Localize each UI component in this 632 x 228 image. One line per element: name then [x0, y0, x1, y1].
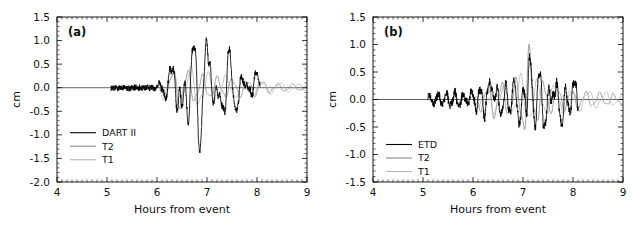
y-axis-tick-label: -0.5: [30, 105, 51, 117]
chart-panel-b: 4567891.51.00.50.0-0.5-1.0-1.5Hours from…: [316, 0, 632, 228]
y-axis-tick-label: -1.0: [346, 148, 367, 160]
y-axis-tick-label: 1.0: [349, 38, 366, 50]
y-axis-tick-label: 0.0: [349, 93, 366, 105]
chart-svg-a: 4567891.51.00.50.0-0.5-1.0-1.5-2.0Hours …: [0, 0, 316, 228]
plot-frame: [57, 17, 307, 182]
y-axis-tick-label: -1.5: [30, 152, 51, 164]
y-axis-title: cm: [326, 91, 339, 108]
x-axis-tick-label: 4: [54, 186, 61, 198]
x-axis-tick-label: 9: [304, 186, 311, 198]
legend-label-etd: ETD: [418, 139, 437, 150]
x-axis-title: Hours from event: [134, 203, 231, 216]
y-axis-title: cm: [10, 91, 23, 108]
y-axis-tick-label: -1.0: [30, 128, 51, 140]
y-axis-tick-label: 0.5: [349, 66, 366, 78]
legend-label-t1: T1: [101, 154, 114, 165]
chart-panel-a: 4567891.51.00.50.0-0.5-1.0-1.5-2.0Hours …: [0, 0, 316, 228]
legend-label-t2: T2: [417, 152, 430, 163]
figure-container: 4567891.51.00.50.0-0.5-1.0-1.5-2.0Hours …: [0, 0, 632, 228]
y-axis-tick-label: 0.5: [33, 58, 50, 70]
x-axis-tick-label: 6: [154, 186, 161, 198]
legend-label-dart-ii: DART II: [102, 127, 136, 138]
y-axis-tick-label: 0.0: [33, 81, 50, 93]
series-trace-etd: [428, 53, 578, 130]
y-axis-tick-label: 1.5: [349, 11, 366, 23]
y-axis-tick-label: -1.5: [346, 176, 367, 188]
x-axis-tick-label: 8: [570, 186, 577, 198]
x-axis-tick-label: 4: [370, 186, 377, 198]
x-axis-title: Hours from event: [450, 203, 547, 216]
x-axis-tick-label: 8: [254, 186, 261, 198]
panel-tag: (b): [384, 25, 403, 39]
x-axis-tick-label: 7: [520, 186, 527, 198]
panel-tag: (a): [68, 25, 86, 39]
x-axis-tick-label: 9: [620, 186, 627, 198]
x-axis-tick-label: 5: [104, 186, 111, 198]
y-axis-tick-label: -0.5: [346, 121, 367, 133]
y-axis-tick-label: 1.0: [33, 34, 50, 46]
legend-label-t2: T2: [101, 141, 114, 152]
x-axis-tick-label: 5: [420, 186, 427, 198]
x-axis-tick-label: 7: [204, 186, 211, 198]
y-axis-tick-label: -2.0: [30, 176, 51, 188]
chart-svg-b: 4567891.51.00.50.0-0.5-1.0-1.5Hours from…: [316, 0, 632, 228]
legend-label-t1: T1: [417, 166, 430, 177]
y-axis-tick-label: 1.5: [33, 11, 50, 23]
x-axis-tick-label: 6: [470, 186, 477, 198]
